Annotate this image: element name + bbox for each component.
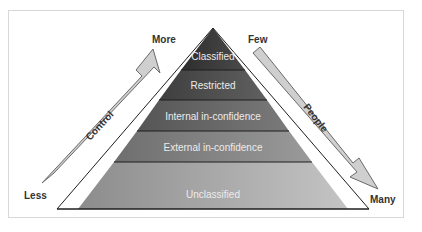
level-label: Classified [191,51,234,62]
level-label: Restricted [190,80,235,91]
level-classified [181,28,245,70]
more-label: More [152,34,176,45]
control-label: Control [83,109,115,143]
people-label: People [301,102,330,135]
level-label: Internal in-confidence [165,111,261,122]
level-unclassified [78,162,348,209]
level-label: External in-confidence [164,142,263,153]
few-label: Few [248,34,268,45]
less-label: Less [24,190,47,201]
level-label: Unclassified [186,189,240,200]
many-label: Many [370,194,396,205]
security-classification-pyramid: Classified Restricted Internal in-confid… [0,0,422,232]
